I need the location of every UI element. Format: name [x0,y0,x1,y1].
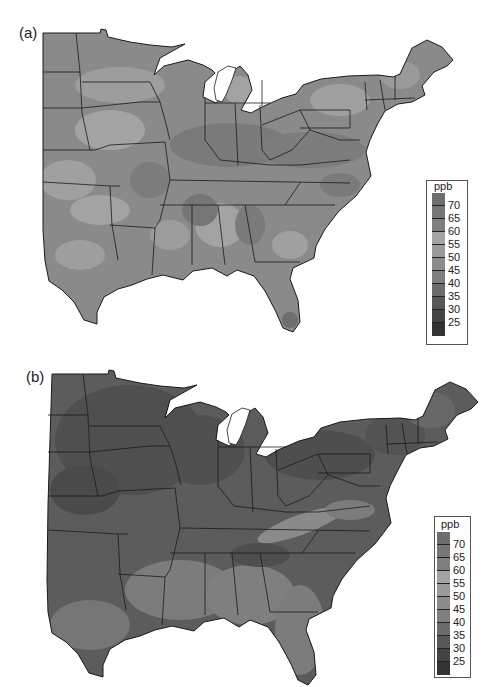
swatch-60 [437,558,450,571]
tick-label: 70 [453,539,465,550]
swatch-45 [432,258,445,271]
tick-label: 60 [453,565,465,576]
swatch-55 [437,571,450,584]
swatch-40 [432,271,445,284]
tick-label: 25 [448,317,460,328]
swatch-45 [437,597,450,610]
tick-label: 65 [453,552,465,563]
tick-label: 70 [448,200,460,211]
tick-label: 55 [453,578,465,589]
swatch-65 [432,206,445,219]
swatch-55 [432,232,445,245]
legend-b-colorbar [437,532,450,675]
swatch-below-25 [432,323,445,336]
tick-label: 35 [448,291,460,302]
swatch-40 [437,610,450,623]
ozone-map-a [0,0,489,345]
legend-a: ppb 70 65 60 55 50 45 40 35 30 25 [426,180,468,345]
swatch-60 [432,219,445,232]
tick-label: 45 [453,604,465,615]
tick-label: 45 [448,265,460,276]
swatch-50 [432,245,445,258]
legend-b-title: ppb [441,518,459,530]
tick-label: 40 [453,617,465,628]
tick-label: 40 [448,278,460,289]
swatch-65 [437,545,450,558]
tick-label: 30 [448,304,460,315]
tick-label: 55 [448,239,460,250]
swatch-35 [437,623,450,636]
tick-label: 30 [453,643,465,654]
swatch-70 [432,193,445,206]
swatch-25 [432,310,445,323]
swatch-35 [432,284,445,297]
swatch-30 [437,636,450,649]
tick-label: 50 [453,591,465,602]
legend-b: ppb 70 65 60 55 50 45 40 35 30 25 [434,516,471,678]
swatch-70 [437,532,450,545]
swatch-50 [437,584,450,597]
legend-a-title: ppb [434,180,452,192]
swatch-30 [432,297,445,310]
swatch-below-25 [437,662,450,675]
tick-label: 25 [453,656,465,667]
tick-label: 35 [453,630,465,641]
tick-label: 60 [448,226,460,237]
legend-a-colorbar [432,193,445,336]
ozone-map-b [0,340,489,687]
tick-label: 65 [448,213,460,224]
tick-label: 50 [448,252,460,263]
swatch-25 [437,649,450,662]
